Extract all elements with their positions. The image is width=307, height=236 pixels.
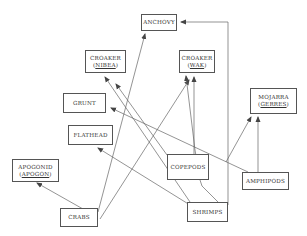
node-copepods: COPEPODS: [167, 154, 209, 180]
food-web-edges: [0, 0, 307, 236]
node-crabs: CRABS: [60, 208, 98, 227]
edge-arrow: [186, 76, 218, 202]
node-croaker-wak: CROAKER(WAK): [179, 50, 215, 73]
node-grunt: GRUNT: [63, 93, 106, 113]
edge-arrow: [226, 117, 251, 162]
node-label: CROAKER: [182, 55, 213, 62]
node-label: CRABS: [68, 214, 89, 221]
node-label: APOGONID: [18, 164, 53, 171]
node-label: ANCHOVY: [143, 19, 175, 26]
node-flathead: FLATHEAD: [68, 125, 113, 145]
node-anchovy: ANCHOVY: [141, 14, 177, 31]
edge-arrow: [100, 80, 189, 219]
node-scientific-name: (GERRES): [258, 101, 289, 108]
node-label: FLATHEAD: [73, 132, 107, 139]
node-label: SHRIMPS: [193, 209, 223, 216]
edge-arrow: [105, 77, 190, 202]
node-amphipods: AMPHIPODS: [242, 172, 289, 190]
edge-arrow: [116, 84, 167, 155]
node-scientific-name: (APOGON): [19, 171, 51, 178]
node-label: MOJARRA: [258, 94, 288, 101]
edge-arrow: [37, 183, 83, 209]
node-label: GRUNT: [73, 100, 96, 107]
node-label: COPEPODS: [171, 164, 206, 171]
node-label: AMPHIPODS: [246, 178, 285, 185]
node-shrimps: SHRIMPS: [187, 202, 228, 222]
node-scientific-name: (WAK): [187, 62, 206, 69]
node-apogonid-apogon: APOGONID(APOGON): [12, 159, 59, 182]
node-label: CROAKER: [90, 55, 121, 62]
node-croaker-nibea: CROAKER(NIBEA): [85, 50, 126, 73]
node-scientific-name: (NIBEA): [93, 62, 118, 69]
node-mojarra-gerres: MOJARRA(GERRES): [250, 88, 297, 114]
